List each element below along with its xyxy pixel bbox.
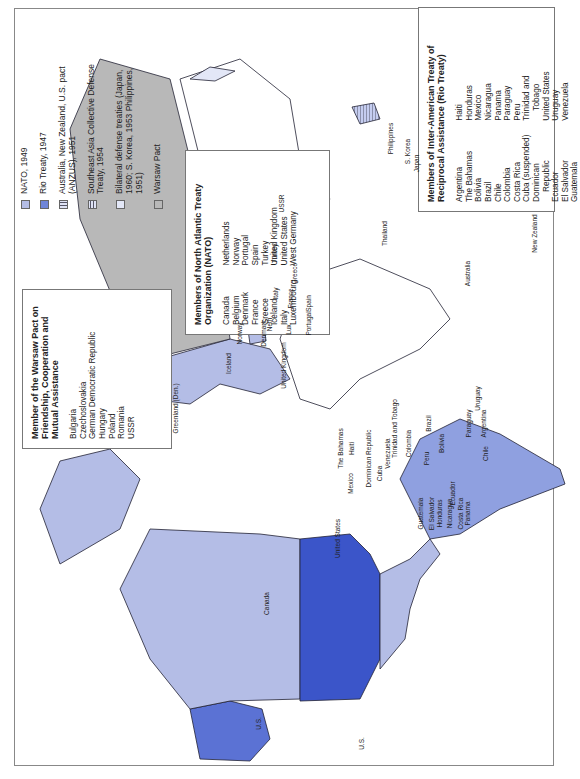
label-spain: Spain — [305, 295, 312, 312]
label-philippines: Philippines — [387, 123, 394, 154]
label-honduras: Honduras — [436, 499, 443, 527]
nato-box-title: Members of North Atlantic Treaty Organiz… — [193, 160, 213, 325]
label-canada: Canada — [263, 592, 270, 615]
rio-box-title: Members of Inter-American Treaty of Reci… — [426, 17, 446, 202]
label-panama: Panama — [464, 501, 471, 525]
label-united-states: United States — [334, 519, 341, 558]
label-iceland: Iceland — [225, 353, 232, 374]
label-neth: Neth. — [266, 316, 273, 332]
label-portugal: Portugal — [305, 311, 312, 335]
nato-col-2: Netherlands Norway Portugal Spain Turkey… — [222, 207, 299, 265]
label-greece: Greece — [291, 263, 298, 284]
label-alaska: U.S. — [255, 717, 262, 730]
label-thailand: Thailand — [381, 221, 388, 246]
rio-col-2: Haiti Honduras Mexico Nicaragua Panama P… — [455, 71, 580, 120]
label-norway: Norway — [236, 322, 243, 344]
label-haiti: Haiti — [348, 442, 355, 455]
label-paraguay: Paraguay — [465, 410, 472, 438]
label-australia: Australia — [464, 261, 471, 286]
label-bahamas: The Bahamas — [337, 428, 344, 468]
label-colombia: Colombia — [405, 430, 412, 457]
label-argentina: Argentina — [480, 410, 487, 438]
label-venezuela: Venezuela — [384, 438, 391, 468]
label-new-zealand: New Zealand — [531, 214, 538, 252]
label-ecuador: Ecuador — [449, 481, 456, 505]
rio-members-columns: Argentina The Bahamas Bolivia Brazil Chi… — [455, 17, 580, 202]
label-italy: Italy — [272, 288, 279, 300]
label-bolivia: Bolivia — [438, 434, 445, 453]
label-chile: Chile — [482, 446, 489, 461]
label-dominican-republic: Dominican Republic — [365, 430, 372, 488]
label-united-kingdom: United Kingdom — [280, 342, 287, 388]
warsaw-box-rot — [20, 340, 130, 565]
label-brazil: Brazil — [425, 415, 432, 431]
label-hawaii: U.S. — [358, 737, 365, 750]
label-uruguay: Uruguay — [474, 386, 481, 411]
label-el-salvador: El Salvador — [428, 497, 435, 530]
label-mexico: Mexico — [347, 473, 354, 494]
label-guatemala: Guatemala — [417, 498, 424, 530]
label-peru: Peru — [423, 452, 430, 466]
label-japan: Japan — [413, 155, 420, 173]
label-france: France — [287, 288, 294, 308]
label-trinidad: Trinidad and Tobago — [391, 399, 398, 458]
label-korea: S. Korea — [404, 139, 411, 164]
rio-col-1: Argentina The Bahamas Bolivia Brazil Chi… — [455, 135, 580, 202]
label-ussr: USSR — [278, 194, 285, 212]
label-turkey: Turkey — [271, 244, 278, 264]
label-greenland: Greenland (Den.) — [172, 383, 179, 433]
rio-members-box: Members of Inter-American Treaty of Reci… — [418, 7, 555, 212]
label-cuba: Cuba — [376, 466, 383, 482]
label-lux: Lux. — [285, 322, 292, 334]
